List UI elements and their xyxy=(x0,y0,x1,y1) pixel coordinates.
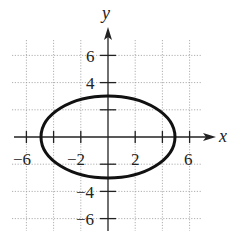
x-axis-label: x xyxy=(218,126,227,146)
x-tick-label: −2 xyxy=(67,150,85,169)
y-tick-label: 4 xyxy=(86,74,95,93)
y-axis-label: y xyxy=(100,3,110,23)
ellipse-graph: −6 −2 2 6 6 4 −4 −6 y x xyxy=(0,0,227,231)
y-tick-label: 6 xyxy=(86,47,95,66)
x-tick-label: 2 xyxy=(131,150,140,169)
x-tick-label: 6 xyxy=(184,150,193,169)
y-tick-label: −4 xyxy=(76,183,95,202)
x-tick-label: −6 xyxy=(13,150,31,169)
axes xyxy=(14,27,216,231)
y-tick-label: −6 xyxy=(76,210,94,229)
